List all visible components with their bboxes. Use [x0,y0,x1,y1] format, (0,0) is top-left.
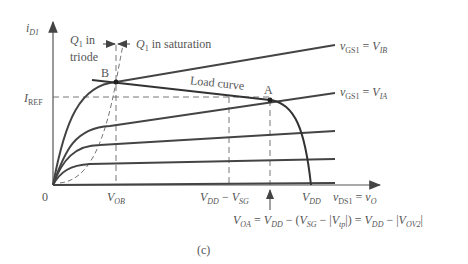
voa-equation: VOA = VDD − (VSG − |Vtp|) = VDD − |VOV2| [233,214,423,229]
point-b-label: B [101,67,109,79]
point-a [268,98,273,103]
vdd-minus-vsg-label: VDD − VSG [200,191,249,206]
vdd-label: VDD [302,191,321,206]
vgs-ib-label: vGS1 = VIB [340,40,387,55]
point-a-label: A [264,84,273,96]
origin-label: 0 [42,191,48,203]
iref-label: IREF [24,92,43,107]
y-axis-label: iD1 [26,22,39,37]
figure-caption: (c) [197,244,210,256]
point-b [114,80,119,85]
triode-label: Q1 in triode [70,34,98,64]
saturation-label: Q1 in saturation [136,38,211,53]
load-curve [92,80,311,185]
curve-4 [53,159,335,185]
x-axis-label: vDS1 = vO [333,191,376,206]
triode-saturation-boundary [60,45,123,183]
vob-label: VOB [107,191,125,206]
vgs-ia-label: vGS1 = VIA [340,86,387,101]
curve-3 [53,131,335,185]
